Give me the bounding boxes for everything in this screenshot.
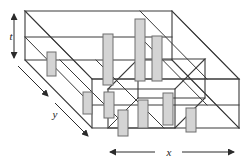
vertical-bar xyxy=(47,52,56,76)
vertical-bar xyxy=(104,92,114,118)
vertical-bar xyxy=(83,92,92,114)
vertical-bar xyxy=(163,93,173,125)
vertical-bar xyxy=(135,19,145,81)
vertical-bar xyxy=(152,36,162,81)
guide-depth-diagonal-mid xyxy=(140,11,207,79)
vertical-bar xyxy=(103,34,113,85)
outer-box-top-face-edges xyxy=(25,11,239,79)
x-axis-label: x xyxy=(166,146,172,158)
t-axis-label: t xyxy=(9,30,13,42)
guide-mid-depth-diagonal-a xyxy=(25,37,92,105)
guide-top-depth-left xyxy=(25,11,92,79)
vertical-bar xyxy=(186,108,196,132)
vertical-bar xyxy=(138,100,148,128)
vertical-bar xyxy=(118,110,128,136)
three-dimensional-box-diagram: t y x xyxy=(0,0,251,164)
y-axis-label: y xyxy=(52,108,58,120)
y-axis-arrow-upper xyxy=(18,66,48,96)
figure-container: t y x xyxy=(0,0,251,164)
